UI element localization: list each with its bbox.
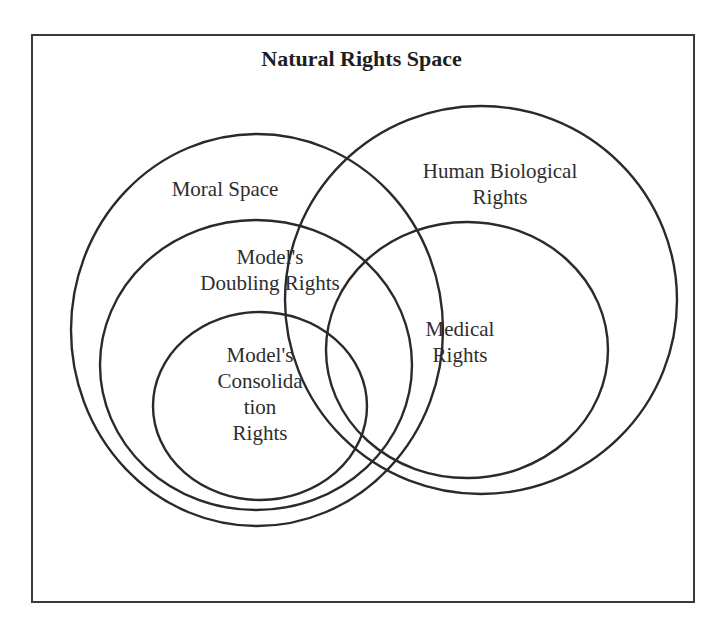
medical-rights-label: Medical Rights (405, 316, 515, 368)
diagram-title: Natural Rights Space (0, 46, 723, 72)
human-biological-rights-label: Human Biological Rights (395, 158, 605, 210)
consolidation-rights-label: Model's Consolida tion Rights (190, 342, 330, 446)
doubling-rights-label: Model's Doubling Rights (170, 244, 370, 296)
venn-diagram (0, 0, 723, 628)
moral-space-label: Moral Space (150, 176, 300, 202)
